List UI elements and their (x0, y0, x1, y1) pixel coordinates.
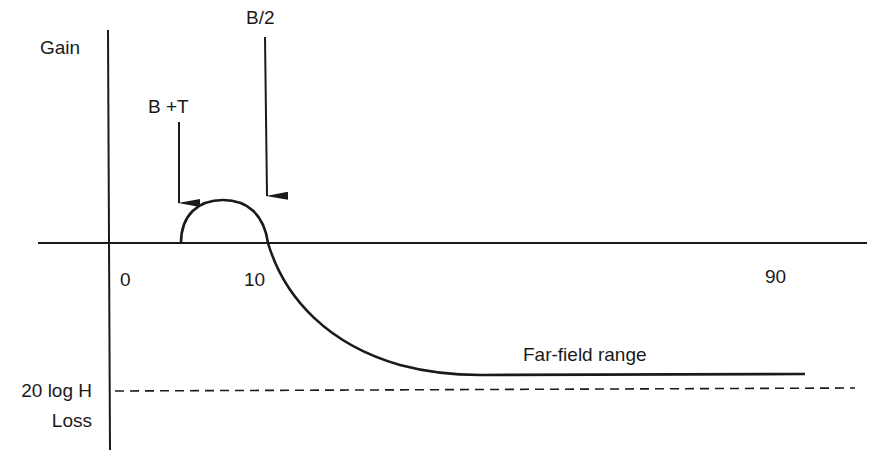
b-half-arrow (265, 37, 267, 196)
tick-label-0: 0 (120, 270, 131, 289)
gain-label: Gain (40, 38, 80, 57)
vertical-axis (108, 30, 110, 450)
loss-level-label: 20 log H (6, 381, 92, 400)
loss-label: Loss (6, 411, 92, 430)
diagram-canvas (0, 0, 883, 469)
b-half-label: B/2 (246, 8, 275, 27)
far-field-range-label: Far-field range (523, 345, 647, 364)
tick-label-90: 90 (765, 267, 786, 286)
b-plus-t-label: B +T (148, 97, 189, 116)
gain-hump-curve (181, 200, 268, 243)
tick-label-10: 10 (244, 270, 265, 289)
loss-level-dashed-line (115, 388, 855, 391)
